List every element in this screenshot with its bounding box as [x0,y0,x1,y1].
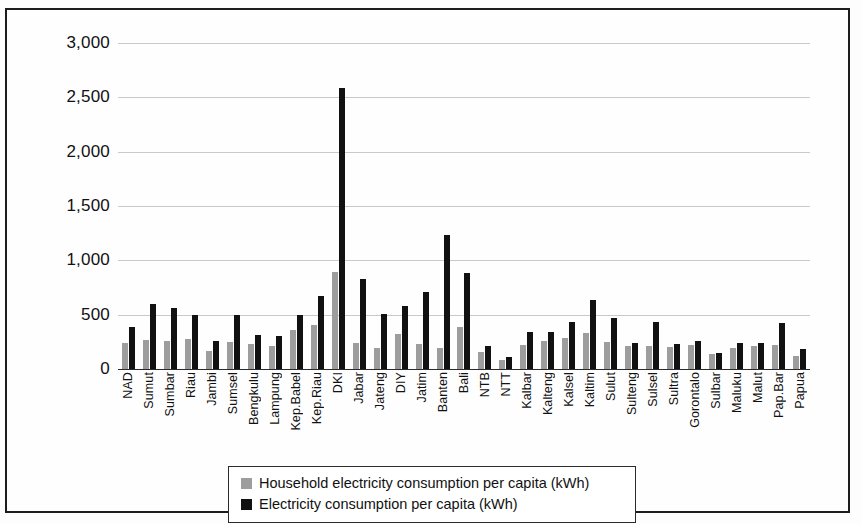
x-tick-label: Kep.Babel [289,372,303,431]
bar-group [495,43,516,369]
legend-label-household: Household electricity consumption per ca… [259,473,589,494]
x-tick-label: Kalsel [562,372,576,407]
x-tick-label: Jambi [205,372,219,406]
bar-group [537,43,558,369]
bar-group [412,43,433,369]
x-axis-labels: NADSumutSumbarRiauJambiSumselBengkuluLam… [118,372,810,467]
bar-household [290,330,296,369]
x-tick-label: Sulsel [646,372,660,407]
bar-group [747,43,768,369]
bar-group [202,43,223,369]
bar-household [730,348,736,369]
bar-total [234,315,240,369]
bar-household [646,346,652,369]
bar-household [164,341,170,369]
bar-group [474,43,495,369]
bar-total [192,315,198,369]
bar-household [667,347,673,369]
bar-total [339,88,345,369]
bar-total [716,353,722,369]
x-tick-label: Lampung [268,372,282,425]
bar-total [611,318,617,369]
bar-household [772,345,778,369]
bar-group [454,43,475,369]
bar-household [793,356,799,369]
bar-household [751,346,757,369]
legend-item-total: Electricity consumption per capita (kWh) [241,494,625,515]
bar-group [118,43,139,369]
bar-total [402,306,408,369]
x-tick-label: Sulbar [709,372,723,409]
bar-group [433,43,454,369]
bar-group [265,43,286,369]
x-tick-label: Kalbar [520,372,534,409]
x-tick-label: Pap.Bar [772,372,786,418]
x-tick-label: Kep.Riau [310,372,324,424]
bar-total [800,349,806,369]
x-tick-label: Gorontalo [688,372,702,428]
bar-total [758,343,764,369]
bar-household [353,343,359,369]
bar-group [642,43,663,369]
x-tick-label: NTT [499,372,513,397]
bar-group [579,43,600,369]
bar-household [227,342,233,369]
bar-group [726,43,747,369]
bar-total [213,341,219,369]
x-tick-label: Jatim [415,372,429,402]
x-tick-label: Sumsel [226,372,240,414]
bar-group [705,43,726,369]
bar-group [768,43,789,369]
bar-total [674,344,680,369]
bar-group [621,43,642,369]
y-axis: 05001,0001,5002,0002,5003,000 [30,43,110,369]
bar-total [171,308,177,369]
bar-total [129,327,135,369]
bar-total [423,292,429,369]
bar-group [244,43,265,369]
bar-total [548,332,554,369]
x-tick-label: Sumut [142,372,156,409]
bar-total [276,336,282,369]
x-tick-label: DIY [394,372,408,393]
bar-household [206,351,212,369]
x-tick-label: Sumbar [163,372,177,416]
bar-group [789,43,810,369]
bar-total [569,322,575,369]
legend-item-household: Household electricity consumption per ca… [241,473,625,494]
bar-total [297,315,303,369]
bar-total [444,235,450,369]
x-tick-label: Jabar [352,372,366,404]
x-tick-label: Riau [184,372,198,398]
x-tick-label: Malut [751,372,765,403]
bar-total [360,279,366,369]
bar-household [499,360,505,369]
bar-household [248,344,254,369]
bar-group [391,43,412,369]
bar-groups [118,43,810,369]
bar-household [520,345,526,369]
bar-group [328,43,349,369]
x-tick-label: Maluku [730,372,744,413]
black-swatch-icon [241,499,252,510]
bar-total [737,343,743,369]
x-tick-label: Bali [457,372,471,393]
bar-group [286,43,307,369]
y-tick-label: 2,500 [66,87,110,107]
bar-total [506,357,512,369]
bar-household [709,354,715,369]
bar-total [318,296,324,369]
bar-household [143,340,149,369]
bar-group [684,43,705,369]
bar-group [223,43,244,369]
bar-total [527,332,533,369]
chart-legend: Household electricity consumption per ca… [228,466,636,523]
x-tick-label: Kaltim [583,372,597,407]
bar-household [604,342,610,369]
y-tick-label: 1,500 [66,196,110,216]
x-tick-label: Bengkulu [247,372,261,425]
bar-household [374,348,380,369]
y-tick-label: 0 [100,359,110,379]
bar-household [583,333,589,369]
bar-household [185,339,191,369]
